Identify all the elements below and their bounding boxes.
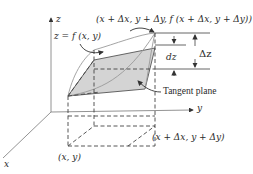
y-axis	[51, 110, 193, 112]
top-point-label: (x + Δx, y + Δy, f (x + Δx, y + Δy))	[96, 15, 252, 24]
surface-label: z = f (x, y)	[54, 32, 101, 41]
tangent-plane-label: Tangent plane	[163, 87, 216, 97]
dz-label: dz	[166, 53, 177, 62]
y-axis-label: y	[197, 104, 202, 113]
base-point-label: (x, y)	[58, 153, 81, 162]
offset-point-label: (x + Δx, y + Δy)	[152, 133, 225, 142]
delta-z-label: Δz	[199, 49, 212, 59]
x-axis-label: x	[4, 160, 9, 169]
tangent-plane	[68, 48, 155, 96]
x-axis	[3, 112, 51, 158]
z-axis-label: z	[56, 15, 61, 24]
